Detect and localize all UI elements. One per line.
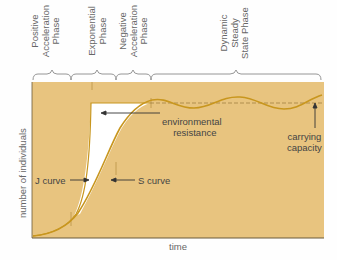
annotation-text: resistance bbox=[162, 127, 222, 138]
y-axis-label: number of individuals bbox=[17, 128, 28, 218]
j-curve-label: J curve bbox=[35, 175, 66, 186]
annotation-text: environmental bbox=[162, 116, 222, 127]
annotation-text: carrying bbox=[287, 131, 322, 142]
environmental-resistance-label: environmental resistance bbox=[162, 116, 222, 138]
s-curve-label: S curve bbox=[138, 175, 170, 186]
annotation-text: capacity bbox=[287, 142, 322, 153]
carrying-capacity-label: carrying capacity bbox=[287, 131, 322, 153]
phase-braces bbox=[33, 70, 321, 80]
x-axis-label: time bbox=[169, 241, 187, 252]
